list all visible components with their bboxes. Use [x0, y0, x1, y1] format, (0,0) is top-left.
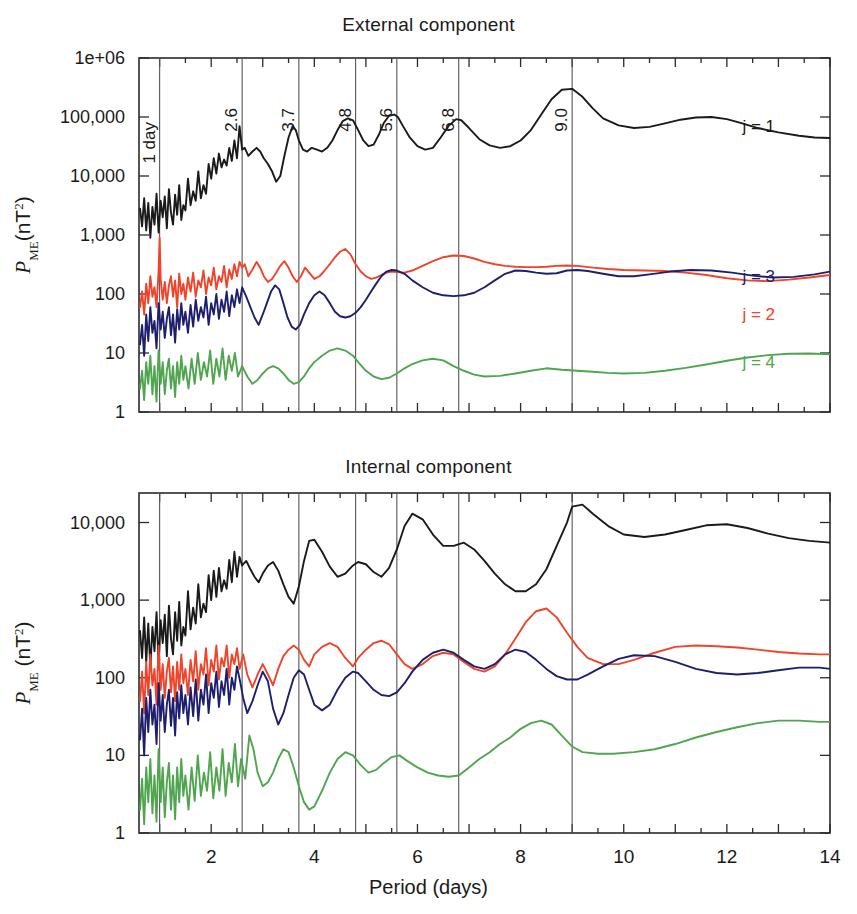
x-tick-label: 12: [716, 846, 737, 867]
panel-external-component: External component 1e+06100,00010,0001,0…: [0, 0, 857, 440]
legend-label-j4: j = 4: [741, 353, 775, 372]
y-tick-label: 1: [115, 402, 125, 422]
series-line-j1: [140, 505, 830, 669]
annotation-vline-label: 1 day: [140, 122, 159, 164]
y-axis-title: PME(nT2): [11, 196, 41, 274]
figure-root: External component 1e+06100,00010,0001,0…: [0, 0, 857, 914]
series-line-j4: [140, 348, 830, 401]
x-axis-title: Period (days): [0, 876, 857, 899]
y-tick-label: 1: [115, 823, 125, 843]
y-tick-label: 10,000: [70, 166, 125, 186]
y-axis-title: PME (nT2): [11, 621, 41, 705]
y-tick-label: 10,000: [70, 513, 125, 533]
annotation-vline-label: 2.6: [222, 108, 241, 132]
y-tick-label: 10: [105, 343, 125, 363]
legend-label-j2: j = 2: [741, 305, 775, 324]
y-tick-label: 100: [95, 284, 125, 304]
x-tick-label: 4: [309, 846, 320, 867]
x-tick-label: 6: [412, 846, 423, 867]
y-tick-label: 10: [105, 745, 125, 765]
x-tick-label: 2: [206, 846, 217, 867]
series-line-j2: [140, 238, 830, 315]
annotation-vline-label: 9.0: [552, 108, 571, 132]
series-line-j1: [140, 89, 830, 238]
panel-internal-component: Internal component 10,0001,000100101PME …: [0, 440, 857, 914]
series-line-j4: [140, 721, 830, 824]
y-tick-label: 100,000: [60, 107, 125, 127]
x-tick-label: 8: [515, 846, 526, 867]
y-tick-label: 1,000: [80, 225, 125, 245]
y-tick-label: 100: [95, 668, 125, 688]
y-tick-label: 1e+06: [74, 48, 125, 68]
legend-label-j3: j = 3: [741, 267, 775, 286]
legend-label-j1: j = 1: [741, 117, 775, 136]
series-line-j3: [140, 650, 830, 756]
plot-area-internal: 10,0001,000100101PME (nT2)2468101214: [0, 440, 857, 914]
plot-area-external: 1e+06100,00010,0001,000100101PME(nT2)1 d…: [0, 0, 857, 440]
x-tick-label: 10: [613, 846, 634, 867]
x-tick-label: 14: [819, 846, 841, 867]
series-line-j3: [140, 270, 830, 356]
y-tick-label: 1,000: [80, 590, 125, 610]
